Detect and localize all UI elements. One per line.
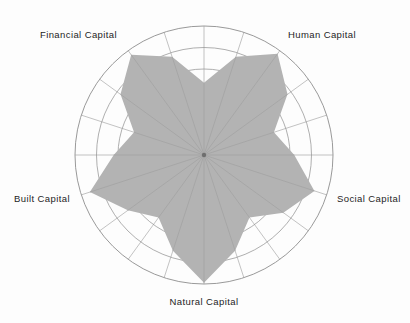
axis-label-social-capital: Social Capital (337, 193, 401, 204)
axis-label-financial-capital: Financial Capital (40, 29, 117, 40)
center-point (202, 153, 206, 157)
radar-chart-canvas: Financial Capital Human Capital Social C… (0, 0, 410, 323)
axis-label-natural-capital: Natural Capital (170, 296, 239, 307)
axis-label-human-capital: Human Capital (288, 29, 356, 40)
radar-chart: Financial Capital Human Capital Social C… (0, 0, 410, 323)
data-series-area (90, 54, 315, 283)
axis-label-built-capital: Built Capital (14, 193, 70, 204)
